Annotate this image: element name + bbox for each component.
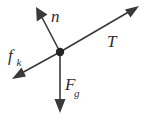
tension-arrow-head bbox=[125, 6, 139, 18]
origin-point-dot bbox=[56, 48, 64, 56]
normal-arrow-head bbox=[36, 7, 48, 22]
gravity-arrow-head bbox=[55, 99, 66, 113]
label-normal-force: n bbox=[51, 7, 60, 26]
vector-gravity bbox=[55, 52, 66, 113]
label-tension-force: T bbox=[107, 32, 118, 51]
force-diagram-canvas: n T f k F g bbox=[0, 0, 145, 120]
friction-vector-line bbox=[19, 52, 60, 75]
label-friction-subscript: k bbox=[17, 56, 23, 68]
label-gravity-subscript: g bbox=[74, 87, 80, 99]
vector-tension bbox=[60, 6, 139, 52]
label-friction-force: f bbox=[8, 46, 15, 65]
free-body-diagram: n T f k F g bbox=[0, 0, 145, 120]
tension-vector-line bbox=[60, 10, 132, 52]
friction-arrow-head bbox=[12, 68, 26, 80]
